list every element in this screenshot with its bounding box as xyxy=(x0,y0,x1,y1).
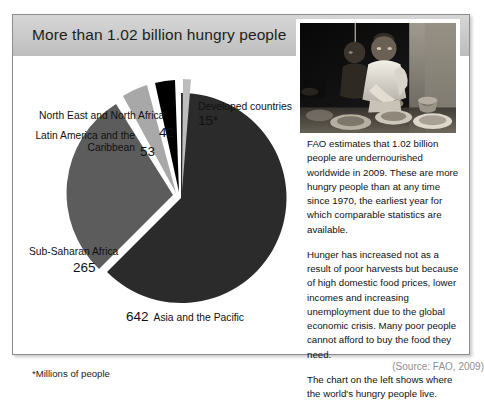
paragraph-3: The chart on the left shows where the wo… xyxy=(307,373,459,401)
photo-frame xyxy=(297,20,459,136)
label-asia-pacific: 642Asia and the Pacific xyxy=(126,307,244,325)
footnote: *Millions of people xyxy=(32,368,110,379)
pie-chart: Developed countries 15* North East and N… xyxy=(13,57,298,356)
label-sub-saharan-africa: Sub-Saharan Africa xyxy=(29,246,118,258)
source-credit: (Source: FAO, 2009) xyxy=(294,361,484,373)
label-latin-america-caribbean: Latin America and the Caribbean xyxy=(31,130,135,153)
pie-graphic xyxy=(13,57,298,322)
page-title: More than 1.02 billion hungry people xyxy=(32,26,286,44)
photo-children-eating xyxy=(300,23,456,133)
paragraph-2: Hunger has increased not as a result of … xyxy=(307,248,459,362)
value-latin-america-caribbean: 53 xyxy=(140,144,155,159)
value-north-east-north-africa: 42 xyxy=(159,125,174,140)
label-north-east-north-africa: North East and North Africa xyxy=(39,110,164,122)
infographic-card: More than 1.02 billion hungry people xyxy=(12,14,470,355)
value-asia-pacific: 642 xyxy=(126,309,149,324)
paragraph-1: FAO estimates that 1.02 billion people a… xyxy=(307,137,459,237)
value-sub-saharan-africa: 265 xyxy=(73,260,96,275)
label-developed-countries: Developed countries 15* xyxy=(198,101,292,128)
